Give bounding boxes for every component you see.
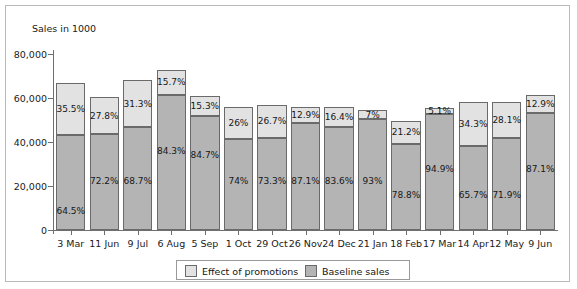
bar-label-baseline-sales: 72.2% — [90, 176, 119, 186]
bar-label-effect-of-promotions: 26.7% — [258, 116, 287, 126]
bar-column[interactable]: 68.7%31.3% — [123, 80, 152, 230]
bar-label-baseline-sales: 64.5% — [56, 206, 85, 216]
bar-column[interactable]: 83.6%16.4% — [324, 107, 353, 230]
y-axis-tick-label: 0 — [6, 225, 47, 236]
plot-area: 64.5%35.5%72.2%27.8%68.7%31.3%84.3%15.7%… — [54, 54, 557, 230]
bar-label-effect-of-promotions: 12.9% — [291, 110, 320, 120]
bar-column[interactable]: 84.3%15.7% — [157, 70, 186, 230]
y-axis-tick-label: 60,000 — [6, 93, 47, 104]
y-axis-tick-label: 80,000 — [6, 49, 47, 60]
bar-label-baseline-sales: 87.1% — [526, 164, 555, 174]
x-axis-tick-label: 17 Mar — [423, 238, 456, 249]
chart-legend: Effect of promotionsBaseline sales — [176, 260, 410, 280]
bar-label-baseline-sales: 78.8% — [392, 190, 421, 200]
bar-column[interactable]: 73.3%26.7% — [257, 105, 286, 230]
y-axis-tick-label: 40,000 — [6, 137, 47, 148]
bar-label-baseline-sales: 84.7% — [191, 150, 220, 160]
x-axis-tick-mark — [339, 230, 340, 235]
x-axis-tick-label: 18 Feb — [390, 238, 422, 249]
x-axis-tick-mark — [540, 230, 541, 235]
x-axis-tick-label: 5 Sep — [191, 238, 218, 249]
bar-label-baseline-sales: 74% — [228, 176, 248, 186]
chart-frame: Sales in 1000 020,00040,00060,00080,000 … — [5, 5, 570, 282]
bar-column[interactable]: 64.5%35.5% — [56, 83, 85, 230]
legend-item[interactable]: Effect of promotions — [185, 264, 298, 278]
bar-column[interactable]: 71.9%28.1% — [492, 102, 521, 230]
bar-segment-baseline-sales[interactable] — [459, 146, 488, 230]
bar-column[interactable]: 74%26% — [224, 107, 253, 230]
bar-column[interactable]: 84.7%15.3% — [190, 96, 219, 230]
bar-column[interactable]: 93%7% — [358, 110, 387, 230]
x-axis-tick-label: 24 Dec — [322, 238, 356, 249]
x-axis-tick-mark — [272, 230, 273, 235]
bar-label-effect-of-promotions: 12.9% — [526, 99, 555, 109]
x-axis-tick-label: 12 May — [489, 238, 524, 249]
y-axis-tick-mark — [48, 98, 53, 99]
x-axis-tick-label: 26 Nov — [289, 238, 323, 249]
bar-segment-baseline-sales[interactable] — [190, 116, 219, 230]
x-axis-tick-label: 3 Mar — [57, 238, 84, 249]
y-axis-tick-mark — [48, 54, 53, 55]
bar-label-baseline-sales: 68.7% — [124, 176, 153, 186]
bar-label-baseline-sales: 65.7% — [459, 190, 488, 200]
legend-swatch-icon — [185, 265, 197, 277]
x-axis-tick-label: 11 Jun — [89, 238, 119, 249]
y-axis-tick-mark — [48, 142, 53, 143]
bar-label-effect-of-promotions: 27.8% — [90, 111, 119, 121]
legend-item[interactable]: Baseline sales — [305, 264, 390, 278]
bar-label-effect-of-promotions: 16.4% — [325, 112, 354, 122]
legend-swatch-icon — [305, 265, 317, 277]
bar-label-effect-of-promotions: 26% — [228, 118, 248, 128]
bar-segment-baseline-sales[interactable] — [492, 138, 521, 230]
x-axis-tick-mark — [473, 230, 474, 235]
x-axis-tick-label: 9 Jun — [528, 238, 552, 249]
x-axis-tick-mark — [238, 230, 239, 235]
x-axis-tick-mark — [507, 230, 508, 235]
bar-label-baseline-sales: 71.9% — [492, 190, 521, 200]
x-axis-tick-label: 9 Jul — [128, 238, 149, 249]
bar-label-effect-of-promotions: 15.7% — [157, 77, 186, 87]
bar-label-effect-of-promotions: 7% — [365, 110, 379, 120]
bar-segment-baseline-sales[interactable] — [358, 119, 387, 230]
legend-label: Baseline sales — [322, 266, 390, 277]
bar-label-effect-of-promotions: 28.1% — [492, 115, 521, 125]
x-axis-tick-label: 21 Jan — [358, 238, 388, 249]
x-axis-tick-label: 6 Aug — [158, 238, 186, 249]
bar-label-effect-of-promotions: 35.5% — [56, 104, 85, 114]
x-axis-tick-label: 29 Oct — [256, 238, 288, 249]
x-axis-tick-mark — [205, 230, 206, 235]
bar-column[interactable]: 65.7%34.3% — [459, 102, 488, 230]
bar-label-baseline-sales: 73.3% — [258, 176, 287, 186]
bar-label-effect-of-promotions: 34.3% — [459, 119, 488, 129]
x-axis-tick-mark — [306, 230, 307, 235]
bar-column[interactable]: 78.8%21.2% — [391, 121, 420, 230]
bar-label-effect-of-promotions: 31.3% — [124, 99, 153, 109]
x-axis-tick-mark — [373, 230, 374, 235]
y-axis-tick-label: 20,000 — [6, 181, 47, 192]
bar-segment-baseline-sales[interactable] — [157, 95, 186, 230]
bar-label-effect-of-promotions: 15.3% — [191, 101, 220, 111]
bar-label-effect-of-promotions: 5.1% — [428, 106, 451, 116]
bar-column[interactable]: 72.2%27.8% — [90, 97, 119, 230]
y-axis-tick-mark — [48, 230, 53, 231]
bar-label-baseline-sales: 93% — [363, 176, 383, 186]
bar-label-baseline-sales: 94.9% — [425, 164, 454, 174]
bar-column[interactable]: 87.1%12.9% — [526, 95, 555, 230]
x-axis-tick-mark — [138, 230, 139, 235]
x-axis-tick-mark — [171, 230, 172, 235]
y-axis-title: Sales in 1000 — [32, 23, 96, 34]
x-axis-tick-mark — [406, 230, 407, 235]
x-axis-tick-mark — [104, 230, 105, 235]
bar-label-baseline-sales: 87.1% — [291, 176, 320, 186]
bar-label-baseline-sales: 84.3% — [157, 146, 186, 156]
bar-column[interactable]: 87.1%12.9% — [291, 107, 320, 230]
bar-segment-baseline-sales[interactable] — [391, 144, 420, 230]
x-axis-tick-label: 1 Oct — [226, 238, 252, 249]
bar-label-baseline-sales: 83.6% — [325, 176, 354, 186]
bar-column[interactable]: 94.9%5.1% — [425, 108, 454, 230]
y-axis-tick-mark — [48, 186, 53, 187]
legend-label: Effect of promotions — [202, 266, 298, 277]
bar-label-effect-of-promotions: 21.2% — [392, 127, 421, 137]
x-axis-tick-mark — [440, 230, 441, 235]
x-axis-tick-mark — [71, 230, 72, 235]
